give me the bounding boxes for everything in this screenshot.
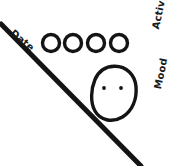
activity-circle-2[interactable] xyxy=(65,35,82,52)
activity-circle-1[interactable] xyxy=(43,35,60,52)
activity-circle-4[interactable] xyxy=(111,35,128,52)
face-outline xyxy=(92,66,137,120)
mood-face[interactable] xyxy=(92,66,137,120)
activity-circle-group xyxy=(43,35,128,52)
sketch-drawing xyxy=(0,0,170,166)
face-eye-right xyxy=(119,86,123,90)
sketch-canvas: Date Activity Mood xyxy=(0,0,170,166)
face-eye-left xyxy=(102,86,106,90)
activity-circle-3[interactable] xyxy=(88,35,105,52)
